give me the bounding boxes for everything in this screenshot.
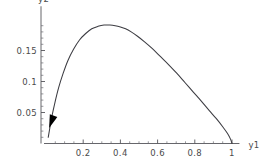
y-axis-major-ticks [41,51,45,113]
y-tick-label: 0.1 [22,77,37,87]
x-tick-label: 0.2 [76,148,91,158]
phase-plane-plot: 0.20.40.60.81 0.050.10.15 y1 y2 [0,0,268,167]
y-tick-label: 0.15 [16,46,37,56]
x-tick-label: 0.6 [150,148,165,158]
x-tick-label: 0.8 [187,148,202,158]
y-axis-label: y2 [38,0,49,4]
x-axis-tick-labels: 0.20.40.60.81 [76,148,235,158]
x-axis-label: y1 [248,140,259,150]
x-tick-label: 0.4 [113,148,128,158]
plot-canvas: 0.20.40.60.81 0.050.10.15 y1 y2 [0,0,268,167]
y-axis-tick-labels: 0.050.10.15 [16,46,37,118]
axes-group [41,6,239,143]
x-axis-major-ticks [83,140,232,144]
direction-arrow-icon [49,114,57,128]
y-tick-label: 0.05 [16,108,37,118]
trajectory-curve [48,25,232,144]
x-tick-label: 1 [229,148,235,158]
